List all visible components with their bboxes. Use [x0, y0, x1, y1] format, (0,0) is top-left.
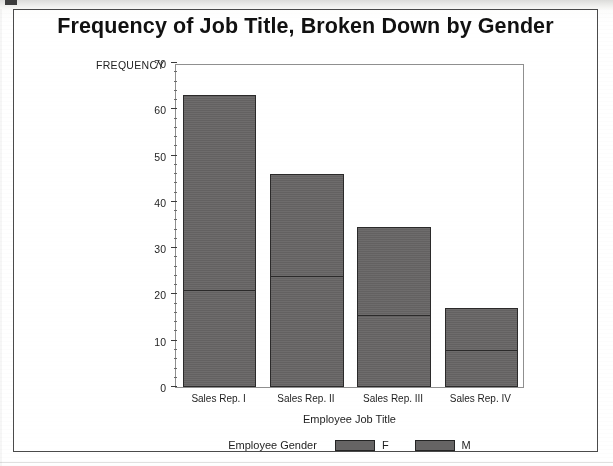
bar-segment-f: [270, 276, 344, 387]
y-axis-major-tick: [171, 62, 177, 63]
legend-swatch-icon: [335, 440, 375, 451]
scan-top-mark: [5, 0, 17, 5]
legend-item-m[interactable]: M: [415, 439, 471, 451]
y-axis-tick-label: 10: [154, 336, 166, 348]
bar-group: [183, 63, 257, 387]
y-axis-tick-label: 70: [154, 58, 166, 70]
legend-item-f[interactable]: F: [335, 439, 389, 451]
bar-texture: [358, 228, 430, 315]
bar-texture: [446, 351, 518, 386]
bar-segment-m: [183, 95, 257, 289]
x-axis-category-label: Sales Rep. III: [363, 393, 423, 404]
x-axis-category-label: Sales Rep. IV: [450, 393, 511, 404]
bar-texture: [271, 175, 343, 276]
bar-segment-f: [357, 315, 431, 387]
bar-texture: [184, 291, 256, 386]
scan-top-edge-artifact: [0, 0, 613, 9]
bar-segment-f: [445, 350, 519, 387]
bar-group: [445, 63, 519, 387]
legend-swatch-icon: [415, 440, 455, 451]
legend-title: Employee Gender: [228, 439, 317, 451]
plot-area: [175, 64, 524, 388]
y-axis-tick-label: 60: [154, 104, 166, 116]
y-axis-tick-label: 30: [154, 243, 166, 255]
x-axis-title: Employee Job Title: [175, 413, 524, 425]
chart-title: Frequency of Job Title, Broken Down by G…: [13, 14, 598, 39]
bar-texture: [358, 316, 430, 386]
x-axis-category-labels: Sales Rep. ISales Rep. IISales Rep. IIIS…: [175, 393, 524, 409]
legend-label: M: [462, 439, 471, 451]
legend: Employee Gender FM: [175, 437, 524, 453]
bar-segment-m: [357, 227, 431, 315]
bar-group: [357, 63, 431, 387]
x-axis-category-label: Sales Rep. II: [277, 393, 334, 404]
y-axis-tick-label: 20: [154, 289, 166, 301]
y-axis-tick-label: 0: [160, 382, 166, 394]
x-axis-category-label: Sales Rep. I: [191, 393, 245, 404]
bar-texture: [271, 277, 343, 386]
bar-segment-m: [445, 308, 519, 350]
bars-layer: [176, 65, 523, 387]
page-bottom-edge: [0, 462, 613, 463]
bar-texture: [184, 96, 256, 289]
bar-segment-f: [183, 290, 257, 387]
y-axis-tick-label: 40: [154, 197, 166, 209]
legend-label: F: [382, 439, 389, 451]
bar-texture: [446, 309, 518, 350]
bar-segment-m: [270, 174, 344, 276]
y-axis-tick-label: 50: [154, 151, 166, 163]
bar-group: [270, 63, 344, 387]
